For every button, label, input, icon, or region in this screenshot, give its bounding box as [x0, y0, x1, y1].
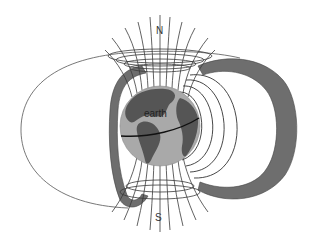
- diagram-canvas: [0, 0, 315, 246]
- earth-globe: [120, 86, 200, 166]
- earth-label: earth: [144, 109, 167, 119]
- outer-field-loop-top-right: [140, 51, 240, 58]
- magnetosphere-diagram: N S earth: [0, 0, 315, 246]
- south-pole-label: S: [155, 213, 162, 223]
- north-pole-label: N: [156, 26, 163, 36]
